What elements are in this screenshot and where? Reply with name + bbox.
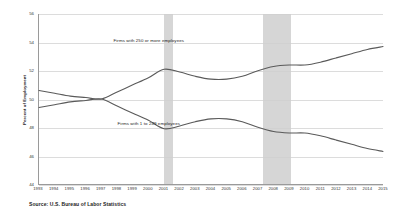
source-note: Source: U.S. Bureau of Labor Statistics — [29, 201, 126, 207]
x-axis-tick-labels: 1993199419951996199719981999200020012002… — [38, 187, 383, 197]
y-axis-tick-label: 48 — [4, 126, 34, 130]
series-lines — [39, 14, 383, 184]
y-axis-tick-label: 54 — [4, 40, 34, 44]
y-axis-tick-label: 46 — [4, 154, 34, 158]
y-axis-tick-label: 50 — [4, 97, 34, 101]
y-axis-tick-labels: 44464850525456 — [0, 14, 36, 185]
plot-area: Firms with 250 or more employeesFirms wi… — [38, 14, 383, 185]
series-line-2 — [39, 99, 383, 152]
y-axis-tick-label: 52 — [4, 69, 34, 73]
y-axis-tick-label: 56 — [4, 12, 34, 16]
series-annotation-2: Firms with 1 to 249 employees — [118, 122, 180, 126]
x-axis-tick-label: 2015 — [372, 187, 394, 191]
chart-container: Percent of Employment 44464850525456 Fir… — [0, 0, 397, 217]
series-line-1 — [39, 47, 383, 100]
series-annotation-1: Firms with 250 or more employees — [113, 39, 184, 43]
